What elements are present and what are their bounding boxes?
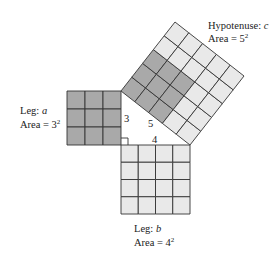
leg-b-label: Leg: b bbox=[134, 223, 161, 234]
leg-a-square bbox=[67, 91, 121, 145]
right-angle-marker bbox=[121, 138, 128, 145]
leg-a-label: Leg: a bbox=[20, 105, 47, 116]
hypotenuse-label: Hypotenuse: c bbox=[208, 20, 269, 31]
leg-b-cell bbox=[173, 145, 190, 162]
leg-b-cell bbox=[121, 145, 138, 162]
leg-b-cell bbox=[138, 197, 155, 214]
side-label-c: 5 bbox=[148, 118, 153, 129]
leg-b-cell bbox=[156, 197, 173, 214]
leg-a-cell bbox=[67, 109, 85, 127]
leg-b-cell bbox=[173, 180, 190, 197]
pythagorean-diagram: 3 5 4 Leg: a Area = 32 Leg: b Area = 42 … bbox=[0, 0, 277, 254]
leg-b-cell bbox=[138, 145, 155, 162]
leg-a-area: Area = 32 bbox=[20, 118, 61, 130]
leg-b-cell bbox=[156, 162, 173, 179]
leg-b-area: Area = 42 bbox=[134, 236, 175, 248]
leg-b-cell bbox=[156, 180, 173, 197]
leg-a-cell bbox=[85, 91, 103, 109]
leg-b-cell bbox=[173, 162, 190, 179]
leg-b-cell bbox=[138, 162, 155, 179]
side-label-b: 4 bbox=[152, 134, 158, 145]
side-label-a: 3 bbox=[124, 113, 129, 124]
leg-b-square bbox=[121, 145, 190, 214]
leg-b-cell bbox=[138, 180, 155, 197]
leg-a-cell bbox=[103, 91, 121, 109]
leg-b-cell bbox=[121, 180, 138, 197]
leg-a-cell bbox=[85, 109, 103, 127]
leg-a-cell bbox=[103, 109, 121, 127]
leg-b-cell bbox=[156, 145, 173, 162]
leg-a-cell bbox=[67, 127, 85, 145]
leg-a-cell bbox=[85, 127, 103, 145]
leg-b-cell bbox=[121, 162, 138, 179]
leg-b-cell bbox=[173, 197, 190, 214]
leg-a-cell bbox=[67, 91, 85, 109]
hypotenuse-area: Area = 52 bbox=[208, 32, 249, 44]
leg-b-cell bbox=[121, 197, 138, 214]
leg-a-cell bbox=[103, 127, 121, 145]
